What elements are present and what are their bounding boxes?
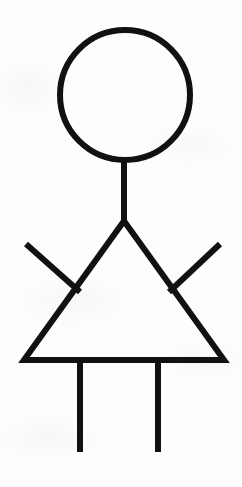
head-circle [60, 30, 190, 160]
drawing-canvas [0, 0, 242, 487]
stick-figure-drawing [0, 0, 242, 487]
left-arm-line [26, 244, 80, 292]
right-arm-line [169, 244, 220, 292]
body-triangle [24, 221, 224, 360]
